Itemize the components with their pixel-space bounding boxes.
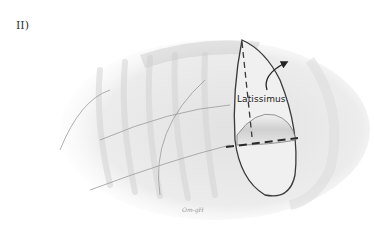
muscle-label: Latissimus — [237, 94, 286, 104]
artist-signature: Om-gH — [182, 206, 204, 213]
torso-shading — [60, 40, 370, 220]
surgical-illustration — [0, 0, 374, 234]
